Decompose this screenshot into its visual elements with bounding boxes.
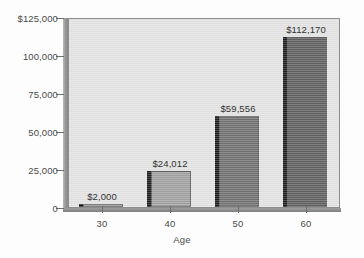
- x-axis-tick-label: 40: [165, 218, 176, 229]
- bar-value-label: $59,556: [220, 103, 255, 114]
- x-axis-title: Age: [0, 234, 364, 245]
- y-axis-tick-label: $125,000: [18, 13, 58, 24]
- x-axis-base: [63, 208, 341, 212]
- x-axis-tick: [170, 206, 171, 213]
- bar-value-label: $2,000: [87, 191, 117, 202]
- x-axis-tick: [102, 206, 103, 213]
- bar-chart-figure: Age 025,00050,00075,000100,000$125,000$2…: [0, 0, 364, 258]
- y-axis-tick-label: 100,000: [23, 51, 58, 62]
- x-axis-tick-label: 30: [97, 218, 108, 229]
- bar-age-30[interactable]: [83, 204, 123, 207]
- x-axis-tick: [238, 206, 239, 213]
- y-axis-tick-label: 0: [53, 203, 58, 214]
- x-axis-tick: [306, 206, 307, 213]
- x-axis-tick-label: 60: [301, 218, 312, 229]
- bar-value-label: $24,012: [152, 158, 187, 169]
- y-axis-tick-label: 25,000: [28, 165, 58, 176]
- bar-age-40[interactable]: [151, 171, 191, 207]
- y-axis-tick-label: 50,000: [28, 127, 58, 138]
- plot-area: [68, 18, 340, 208]
- bar-age-60[interactable]: [287, 37, 327, 207]
- bar-value-label: $112,170: [286, 24, 326, 35]
- y-axis-tick-label: 75,000: [28, 89, 58, 100]
- bar-age-50[interactable]: [219, 116, 259, 207]
- x-axis-tick-label: 50: [233, 218, 244, 229]
